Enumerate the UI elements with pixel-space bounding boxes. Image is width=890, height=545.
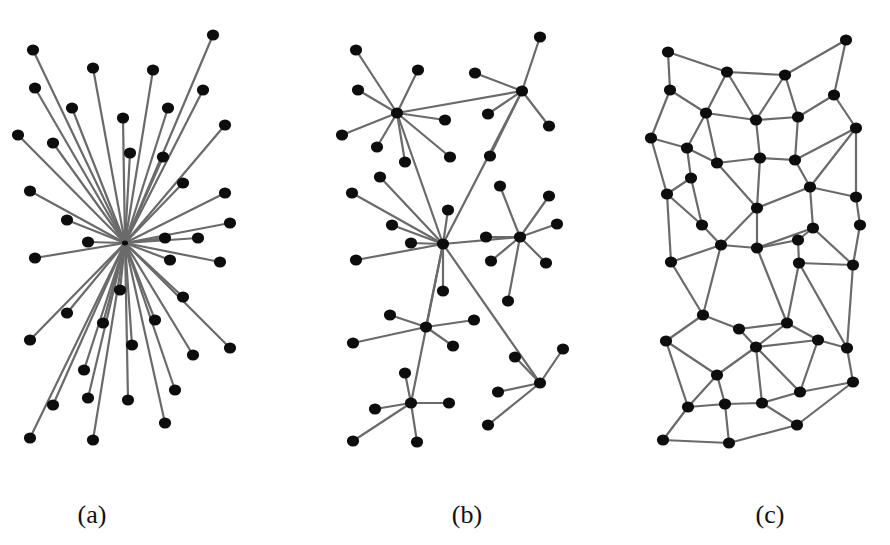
graph-edge [123, 118, 125, 243]
graph-node [114, 285, 126, 296]
graph-edge [687, 113, 706, 148]
graph-node [751, 243, 763, 254]
graph-node [164, 255, 176, 266]
graph-node [350, 255, 362, 266]
graph-node [61, 215, 73, 226]
graph-edge [810, 187, 856, 197]
graph-edge [799, 263, 853, 265]
graph-node [696, 220, 708, 231]
graph-node [681, 143, 693, 154]
graph-edge [762, 403, 797, 425]
graph-node [442, 205, 454, 216]
graph-node [514, 232, 526, 243]
graph-node [336, 130, 348, 141]
graph-edge [703, 245, 721, 315]
graph-node [122, 241, 128, 246]
graph-edge [666, 341, 717, 375]
graph-node [468, 315, 480, 326]
graph-edge [356, 50, 397, 113]
graph-edge [756, 347, 762, 403]
graph-edge [729, 425, 797, 443]
graph-node [662, 47, 674, 58]
graph-node [657, 435, 669, 446]
graph-node [697, 310, 709, 321]
graph-node [543, 191, 555, 202]
graph-edge [670, 90, 706, 113]
graph-node [719, 399, 731, 410]
graph-node [700, 108, 712, 119]
graph-edge [380, 177, 443, 244]
graph-node [369, 404, 381, 415]
graph-node [841, 343, 853, 354]
graph-node [492, 387, 504, 398]
network-topology-figure [0, 0, 890, 545]
graph-edge [668, 52, 727, 72]
graph-edge [717, 158, 760, 163]
graph-edge [757, 158, 760, 208]
graph-edge [797, 382, 853, 425]
graph-node [47, 400, 59, 411]
graph-node [682, 402, 694, 413]
graph-node [192, 233, 204, 244]
graph-node [756, 398, 768, 409]
graph-node [794, 387, 806, 398]
graph-node [540, 258, 552, 269]
graph-node [828, 90, 840, 101]
graph-node [840, 35, 852, 46]
graph-edge [717, 163, 757, 208]
graph-node [751, 203, 763, 214]
graph-edge [667, 194, 671, 262]
graph-edge [834, 95, 856, 128]
graph-node [224, 343, 236, 354]
graph-node [87, 435, 99, 446]
graph-node [557, 344, 569, 355]
graph-node [482, 420, 494, 431]
graph-edge [757, 228, 813, 248]
graph-edge [397, 70, 418, 113]
graph-node [162, 103, 174, 114]
graph-node [177, 178, 189, 189]
graph-node [29, 253, 41, 264]
graph-edge [353, 327, 426, 343]
panel-label-a: (a) [78, 500, 107, 530]
graph-node [660, 336, 672, 347]
graph-edge [795, 128, 856, 160]
graph-node [711, 370, 723, 381]
graph-edge [426, 320, 474, 327]
panel-label-b: (b) [452, 500, 482, 530]
graph-edge [651, 138, 667, 194]
graph-node [721, 67, 733, 78]
graph-node [399, 368, 411, 379]
graph-node [723, 438, 735, 449]
graph-node [169, 385, 181, 396]
graph-node [117, 113, 129, 124]
graph-edge [522, 37, 540, 91]
graph-node [812, 335, 824, 346]
graph-node [850, 192, 862, 203]
graph-node [485, 256, 497, 267]
graph-edge [72, 108, 125, 243]
graph-edge [125, 108, 168, 243]
graph-edge [795, 117, 798, 160]
graph-edge [787, 263, 799, 323]
graph-node [850, 123, 862, 134]
graph-node [534, 32, 546, 43]
graph-edge [411, 403, 417, 442]
graph-node [78, 365, 90, 376]
graph-node [159, 418, 171, 429]
graph-node [807, 223, 819, 234]
graph-node [792, 235, 804, 246]
graph-node [371, 142, 383, 153]
graph-node [386, 220, 398, 231]
graph-edge [663, 440, 729, 443]
graph-node [82, 393, 94, 404]
graph-node [405, 398, 417, 409]
graph-node [411, 437, 423, 448]
graph-edge [668, 52, 670, 90]
graph-node [733, 324, 745, 335]
distributed-network-diagram [645, 35, 866, 449]
graph-edge [358, 90, 397, 113]
graph-node [661, 189, 673, 200]
graph-node [847, 260, 859, 271]
graph-node [482, 109, 494, 120]
